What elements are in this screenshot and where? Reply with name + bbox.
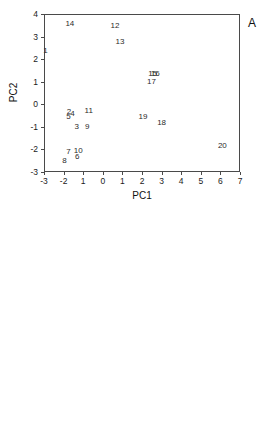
data-point-label: 11 (85, 107, 93, 115)
data-point-label: 10 (74, 147, 83, 155)
x-tick-mark (44, 172, 45, 175)
y-tick-label: 4 (22, 10, 38, 19)
x-tick-label: -3 (40, 177, 48, 186)
x-tick-mark (181, 172, 182, 175)
x-tick-mark (142, 172, 143, 175)
y-tick-mark (41, 82, 44, 83)
data-point-label: 20 (218, 142, 227, 150)
x-tick-label: 4 (179, 177, 184, 186)
y-tick-label: 0 (22, 100, 38, 109)
x-tick-label: 0 (100, 177, 105, 186)
y-tick-mark (41, 149, 44, 150)
y-tick-label: 1 (22, 77, 38, 86)
x-tick-mark (122, 172, 123, 175)
x-tick-label: 1 (120, 177, 125, 186)
x-tick-label: 5 (198, 177, 203, 186)
data-point-label: 9 (85, 123, 89, 131)
x-tick-mark (220, 172, 221, 175)
data-point-label: 8 (62, 157, 66, 165)
y-tick-mark (41, 127, 44, 128)
data-point-label: 7 (66, 148, 70, 156)
x-tick-label: 1 (81, 177, 86, 186)
y-tick-label: -2 (22, 145, 38, 154)
y-tick-label: -3 (22, 168, 38, 177)
x-tick-label: 7 (238, 177, 243, 186)
x-tick-mark (103, 172, 104, 175)
x-tick-label: 6 (218, 177, 223, 186)
panel-a-pca-scores: A PC1 PC2 -3-2101234567 -3-2-101234 1234… (0, 0, 276, 211)
x-tick-label: 3 (159, 177, 164, 186)
data-point-label: 12 (110, 22, 119, 30)
x-tick-mark (64, 172, 65, 175)
data-point-label: 17 (147, 78, 156, 86)
data-point-label: 19 (139, 113, 148, 121)
x-tick-mark (83, 172, 84, 175)
x-tick-mark (240, 172, 241, 175)
y-tick-mark (41, 172, 44, 173)
x-axis-title-panel-a: PC1 (132, 190, 151, 201)
y-axis-title-panel-a: PC2 (8, 83, 19, 102)
data-point-label: 4 (70, 110, 74, 118)
panel-b-pca-loadings: B Ev1 Ev2 -0.20.00.20.4 0.20-0.2-0.4 PbZ… (0, 211, 276, 422)
y-tick-mark (41, 104, 44, 105)
y-tick-mark (41, 14, 44, 15)
data-point-label: 13 (116, 38, 125, 46)
x-tick-mark (201, 172, 202, 175)
data-point-label: 18 (157, 119, 166, 127)
data-point-label: 14 (65, 20, 74, 28)
data-point-label: 3 (74, 123, 78, 131)
y-tick-label: 3 (22, 32, 38, 41)
data-point-label: 5 (66, 113, 70, 121)
x-tick-mark (162, 172, 163, 175)
data-point-label: 1 (43, 47, 47, 55)
panel-letter-a: A (248, 16, 256, 30)
x-tick-label: -2 (60, 177, 68, 186)
y-tick-mark (41, 37, 44, 38)
y-tick-label: 2 (22, 55, 38, 64)
x-tick-label: 2 (140, 177, 145, 186)
y-tick-mark (41, 59, 44, 60)
y-tick-label: -1 (22, 123, 38, 132)
